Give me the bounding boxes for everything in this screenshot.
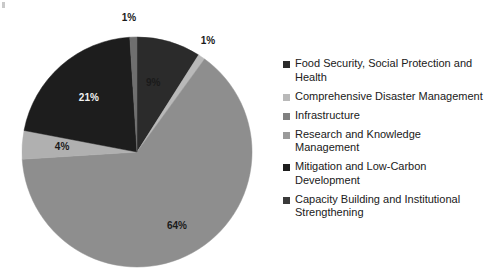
legend-item-label: Food Security, Social Protection and Hea… — [295, 57, 485, 84]
legend-item-label: Capacity Building and Institutional Stre… — [295, 193, 485, 220]
legend-swatch-icon — [283, 61, 290, 68]
legend-item-label: Infrastructure — [295, 109, 360, 123]
legend-swatch-icon — [283, 94, 290, 101]
pie-plot-area: 9%1%64%4%21%1% — [0, 0, 276, 278]
legend-item-3: Research and Knowledge Management — [283, 128, 485, 155]
legend-swatch-icon — [283, 164, 290, 171]
legend-item-1: Comprehensive Disaster Management — [283, 90, 485, 104]
slice-food-security-value-label: 9% — [146, 78, 160, 88]
legend-swatch-icon — [283, 132, 290, 139]
legend-item-label: Research and Knowledge Management — [295, 128, 485, 155]
legend-item-label: Mitigation and Low-Carbon Development — [295, 160, 485, 187]
legend-swatch-icon — [283, 197, 290, 204]
slice-research-value-label: 4% — [55, 142, 69, 152]
slice-mitigation-value-label: 21% — [79, 93, 99, 103]
legend-item-label: Comprehensive Disaster Management — [295, 90, 483, 104]
legend: Food Security, Social Protection and Hea… — [283, 57, 485, 225]
slice-capacity-building-value-label: 1% — [122, 13, 136, 23]
slice-infrastructure-value-label: 64% — [167, 221, 187, 231]
slice-comprehensive-value-label: 1% — [201, 36, 215, 46]
legend-item-5: Capacity Building and Institutional Stre… — [283, 193, 485, 220]
legend-item-2: Infrastructure — [283, 109, 485, 123]
pie-svg — [0, 0, 276, 278]
legend-swatch-icon — [283, 113, 290, 120]
legend-item-4: Mitigation and Low-Carbon Development — [283, 160, 485, 187]
legend-item-0: Food Security, Social Protection and Hea… — [283, 57, 485, 84]
pie-chart-figure: 9%1%64%4%21%1% Food Security, Social Pro… — [0, 0, 489, 278]
